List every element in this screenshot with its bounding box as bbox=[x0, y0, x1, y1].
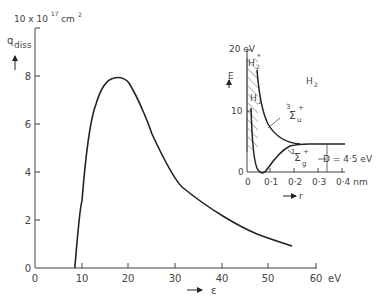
svg-text:6: 6 bbox=[25, 119, 31, 130]
svg-text:cm: cm bbox=[61, 14, 75, 24]
svg-text:0·4 nm: 0·4 nm bbox=[336, 177, 368, 187]
chart: 8 6 4 2 0 0 10 20 30 40 50 60 eV 10 x 10… bbox=[0, 0, 379, 303]
svg-text:0·3: 0·3 bbox=[312, 177, 326, 187]
svg-text:30: 30 bbox=[169, 273, 182, 284]
svg-text:diss: diss bbox=[14, 40, 32, 50]
svg-text:8: 8 bbox=[25, 71, 31, 82]
svg-text:2: 2 bbox=[25, 215, 31, 226]
x-axis-label: ε bbox=[187, 285, 216, 296]
svg-text:H: H bbox=[248, 58, 255, 68]
svg-text:*: * bbox=[257, 53, 261, 61]
svg-text:0·2: 0·2 bbox=[288, 177, 302, 187]
svg-text:ε: ε bbox=[211, 285, 216, 296]
svg-text:17: 17 bbox=[51, 10, 59, 17]
svg-text:60: 60 bbox=[310, 273, 323, 284]
svg-text:g: g bbox=[302, 160, 306, 168]
svg-text:D = 4·5 eV: D = 4·5 eV bbox=[323, 154, 373, 164]
svg-text:10: 10 bbox=[76, 273, 89, 284]
svg-text:0: 0 bbox=[25, 263, 31, 274]
svg-text:2: 2 bbox=[256, 63, 260, 70]
svg-text:H: H bbox=[306, 76, 313, 86]
svg-text:20: 20 bbox=[122, 273, 135, 284]
svg-text:0·1: 0·1 bbox=[264, 177, 278, 187]
svg-text:2: 2 bbox=[314, 81, 318, 88]
x-tick-labels: 0 10 20 30 40 50 60 bbox=[32, 273, 323, 284]
svg-text:50: 50 bbox=[262, 273, 275, 284]
svg-text:Σ: Σ bbox=[294, 151, 301, 164]
svg-text:2: 2 bbox=[78, 11, 82, 18]
svg-text:4: 4 bbox=[25, 167, 31, 178]
svg-text:q: q bbox=[7, 35, 13, 46]
svg-text:0: 0 bbox=[32, 273, 38, 284]
y-axis-label: 10 x 10 17 cm 2 q diss bbox=[7, 10, 82, 70]
svg-text:E: E bbox=[228, 71, 234, 81]
svg-text:+: + bbox=[303, 148, 309, 156]
x-unit: eV bbox=[328, 273, 341, 284]
svg-text:r: r bbox=[299, 191, 303, 201]
svg-text:0: 0 bbox=[238, 167, 244, 177]
svg-text:20 eV: 20 eV bbox=[229, 44, 256, 54]
y-tick-labels: 8 6 4 2 0 bbox=[25, 71, 31, 274]
svg-text:40: 40 bbox=[216, 273, 229, 284]
svg-text:+: + bbox=[298, 104, 304, 112]
qdiss-curve bbox=[75, 77, 292, 268]
svg-text:u: u bbox=[297, 116, 301, 124]
svg-text:Σ: Σ bbox=[289, 109, 296, 122]
svg-text:2: 2 bbox=[258, 98, 262, 105]
svg-text:0: 0 bbox=[245, 177, 251, 187]
svg-text:H: H bbox=[250, 93, 257, 103]
inset-plot: 20 eV 10 0 E 0 0·1 0·2 0·3 0·4 nm r H 2 … bbox=[228, 44, 373, 201]
svg-text:10: 10 bbox=[231, 106, 243, 116]
svg-text:10 x 10: 10 x 10 bbox=[14, 14, 48, 24]
